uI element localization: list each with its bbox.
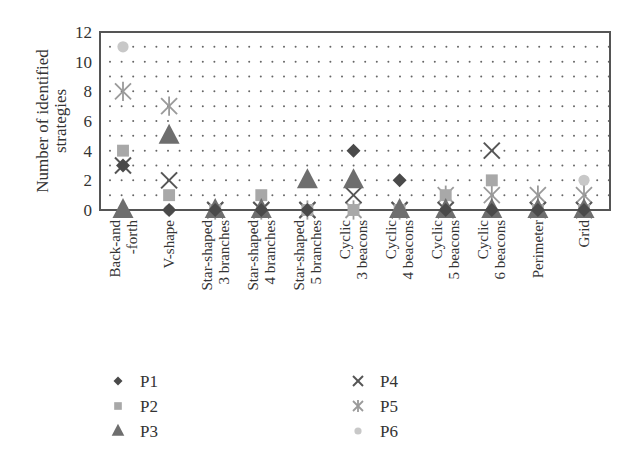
y-axis-label: Number of identified <box>33 49 52 193</box>
data-point-p2 <box>117 145 129 157</box>
data-point-p2 <box>486 174 498 186</box>
x-category-label: Star-shaped <box>199 220 215 291</box>
x-category-label: Cyclic <box>475 220 491 259</box>
y-tick-label: 2 <box>84 171 93 190</box>
x-category-label: 4 branches <box>262 220 278 285</box>
y-axis-ticks: 024681012 <box>75 23 93 220</box>
x-category-label: Perimeter <box>530 220 546 278</box>
x-category-label: 3 beacons <box>354 220 370 280</box>
legend-item-p2: P2 <box>114 397 158 416</box>
legend-label: P4 <box>380 372 398 391</box>
data-point-p1 <box>347 144 361 158</box>
legend-label: P1 <box>140 372 158 391</box>
x-category-label: Cyclic <box>383 220 399 259</box>
data-point-p3 <box>159 124 180 144</box>
data-point-p3 <box>113 198 134 218</box>
scatter-chart: 024681012 Number of identified strategie… <box>0 0 637 459</box>
legend-item-p1: P1 <box>114 372 158 391</box>
y-tick-label: 6 <box>84 112 93 131</box>
data-point-p5 <box>115 82 131 101</box>
legend-item-p3: P3 <box>112 422 158 441</box>
data-point-p3 <box>389 198 410 218</box>
data-point-p5 <box>161 97 177 116</box>
y-tick-label: 4 <box>84 142 93 161</box>
data-points <box>113 41 595 219</box>
x-category-label: 3 branches <box>216 220 232 285</box>
data-point-p2 <box>163 189 175 201</box>
legend-label: P5 <box>380 397 398 416</box>
data-point-p2 <box>348 204 360 216</box>
x-category-label: 4 beacons <box>400 220 416 280</box>
data-point-p4 <box>484 143 500 159</box>
data-point-p6 <box>578 175 589 186</box>
x-category-label: 5 branches <box>308 220 324 285</box>
x-category-label: 6 beacons <box>492 220 508 280</box>
x-axis-category-labels: Back-and-forthV-shapeStar-shaped3 branch… <box>107 220 593 291</box>
data-point-p3 <box>343 168 364 188</box>
y-tick-label: 10 <box>75 53 92 72</box>
data-point-p6 <box>117 41 128 52</box>
x-category-label: Star-shaped <box>245 220 261 291</box>
x-category-label: Star-shaped <box>291 220 307 291</box>
data-point-p4 <box>161 172 177 188</box>
x-category-label: Grid <box>576 220 592 248</box>
x-category-label: Cyclic <box>337 220 353 259</box>
legend-label: P6 <box>380 422 398 441</box>
y-axis-label-line2: strategies <box>51 89 70 153</box>
x-category-label: Cyclic <box>429 220 445 259</box>
legend-item-p6: P6 <box>354 422 398 441</box>
legend: P1P2P3P4P5P6 <box>112 372 399 441</box>
legend-label: P3 <box>140 422 158 441</box>
x-category-label: -forth <box>124 220 140 255</box>
y-tick-label: 12 <box>75 23 92 42</box>
data-point-p3 <box>297 168 318 188</box>
gridlines <box>109 46 610 196</box>
legend-item-p4: P4 <box>353 372 398 391</box>
legend-item-p5: P5 <box>353 397 398 416</box>
x-category-label: V-shape <box>161 220 177 269</box>
y-tick-label: 8 <box>84 82 93 101</box>
legend-label: P2 <box>140 397 158 416</box>
x-category-label: Back-and <box>107 220 123 278</box>
data-point-p1 <box>162 203 176 217</box>
x-category-label: 5 beacons <box>446 220 462 280</box>
data-point-p1 <box>393 173 407 187</box>
y-tick-label: 0 <box>84 201 93 220</box>
